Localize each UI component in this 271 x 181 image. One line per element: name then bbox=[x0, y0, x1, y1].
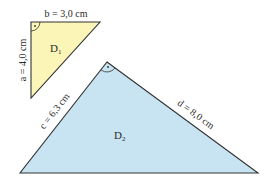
diagram-canvas: b = 3,0 cm a = 4,0 cm D1 c = 6,3 cm d = … bbox=[0, 0, 271, 181]
triangle-d2: c = 6,3 cm d = 8,0 cm D2 bbox=[20, 62, 258, 173]
right-angle-dot-d2 bbox=[107, 66, 109, 68]
right-angle-dot-d1 bbox=[34, 25, 36, 27]
triangle-d1: b = 3,0 cm a = 4,0 cm D1 bbox=[17, 8, 100, 98]
side-b-label: b = 3,0 cm bbox=[45, 8, 88, 19]
side-a-label: a = 4,0 cm bbox=[17, 39, 28, 82]
